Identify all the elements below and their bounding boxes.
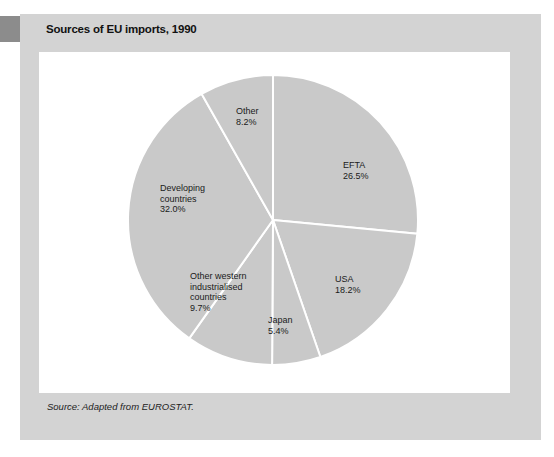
- slice-label-developing-countries: Developing countries 32.0%: [160, 183, 205, 215]
- slice-label-usa: USA 18.2%: [335, 274, 361, 295]
- slice-label-other: Other 8.2%: [236, 106, 259, 127]
- slice-label-efta: EFTA 26.5%: [343, 160, 369, 181]
- corner-accent-block: [0, 16, 20, 42]
- pie-chart: EFTA 26.5%USA 18.2%Japan 5.4%Other weste…: [125, 72, 421, 368]
- slice-label-japan: Japan 5.4%: [268, 315, 293, 336]
- chart-title: Sources of EU imports, 1990: [46, 23, 197, 35]
- source-note: Source: Adapted from EUROSTAT.: [47, 401, 194, 412]
- plot-area: EFTA 26.5%USA 18.2%Japan 5.4%Other weste…: [39, 52, 510, 393]
- chart-panel: Sources of EU imports, 1990 EFTA 26.5%US…: [20, 14, 541, 440]
- pie-labels: EFTA 26.5%USA 18.2%Japan 5.4%Other weste…: [125, 72, 421, 368]
- slice-label-other-western-industrialised-countries: Other western industrialised countries 9…: [190, 271, 247, 313]
